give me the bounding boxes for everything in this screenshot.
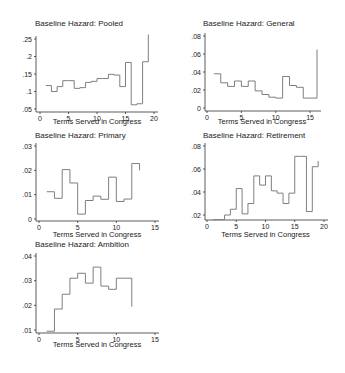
- y-tick-label: .08: [191, 143, 201, 150]
- primary-chart: 0.01.02.03051015Terms Served in Congress: [22, 143, 159, 240]
- x-tick-label: 0: [37, 224, 41, 231]
- y-tick-label: .04: [191, 189, 201, 196]
- y-tick-label: .01: [22, 191, 32, 198]
- y-tick-label: .03: [22, 143, 32, 150]
- y-tick-label: .02: [191, 87, 201, 94]
- x-axis-label: Terms Served in Congress: [53, 230, 142, 239]
- y-tick-label: .02: [22, 302, 32, 309]
- hazard-step-line: [47, 164, 140, 215]
- x-axis-label: Terms Served in Congress: [53, 117, 142, 126]
- y-tick-label: .05: [22, 106, 32, 113]
- x-tick-label: 15: [151, 224, 159, 231]
- general-chart: 0.02.04.06.08051015Terms Served in Congr…: [191, 33, 321, 127]
- y-tick-label: .2: [26, 53, 32, 60]
- y-tick-label: .08: [191, 33, 201, 40]
- x-axis-label: Terms Served in Congress: [53, 340, 142, 349]
- x-tick-label: 0: [37, 336, 41, 343]
- hazard-step-line: [46, 34, 149, 104]
- x-tick-label: 15: [151, 336, 159, 343]
- x-tick-label: 0: [205, 114, 209, 121]
- y-tick-label: 0: [28, 216, 32, 223]
- y-tick-label: .06: [191, 51, 201, 58]
- x-tick-label: 0: [205, 223, 209, 230]
- x-axis-label: Terms Served in Congress: [221, 230, 310, 239]
- x-tick-label: 10: [262, 223, 270, 230]
- x-axis-label: Terms Served in Congress: [218, 117, 307, 126]
- x-tick-label: 5: [234, 223, 238, 230]
- hazard-step-line: [47, 267, 132, 331]
- x-tick-label: 0: [38, 115, 42, 122]
- y-tick-label: .1: [26, 88, 32, 95]
- pooled-chart: .05.1.15.2.2505101520Terms Served in Con…: [22, 34, 158, 126]
- y-tick-label: .04: [22, 253, 32, 260]
- hazard-step-line: [214, 50, 317, 99]
- y-tick-label: .01: [22, 327, 32, 334]
- y-tick-label: .15: [22, 71, 32, 78]
- hazard-step-line: [213, 156, 318, 219]
- y-tick-label: .25: [22, 36, 32, 43]
- y-tick-label: .02: [191, 212, 201, 219]
- x-tick-label: 20: [320, 223, 328, 230]
- hazard-charts-figure: .05.1.15.2.2505101520Terms Served in Con…: [0, 0, 345, 373]
- y-tick-label: .03: [22, 277, 32, 284]
- x-tick-label: 15: [291, 223, 299, 230]
- y-tick-label: 0: [197, 105, 201, 112]
- y-tick-label: .04: [191, 69, 201, 76]
- y-tick-label: .06: [191, 166, 201, 173]
- ambition-chart: .01.02.03.04051015Terms Served in Congre…: [22, 253, 159, 350]
- retirement-chart: .02.04.06.0805101520Terms Served in Cong…: [191, 143, 328, 240]
- x-tick-label: 20: [150, 115, 158, 122]
- y-tick-label: .02: [22, 167, 32, 174]
- x-tick-label: 15: [306, 114, 314, 121]
